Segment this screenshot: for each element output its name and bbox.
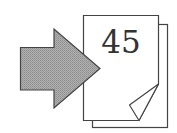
go-to-page-illustration: 45 [0, 0, 177, 133]
page-number: 45 [100, 24, 142, 60]
go-to-page-graphic [0, 0, 177, 133]
